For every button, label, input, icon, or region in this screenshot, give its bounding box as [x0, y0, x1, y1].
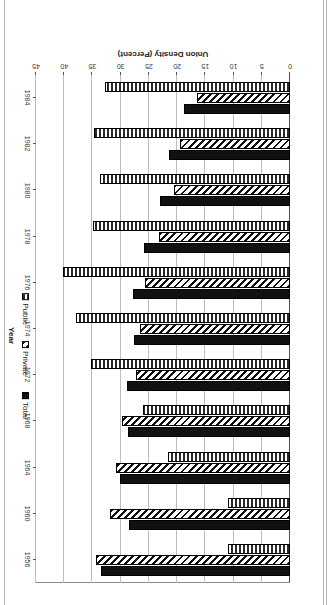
bar-private-1984: [197, 93, 290, 103]
category-axis-tick-mark: [33, 282, 36, 283]
bar-public-1976: [63, 267, 290, 277]
bar-private-1972: [136, 370, 290, 380]
page-edge-line-left-1: [326, 0, 327, 605]
bar-total-1984: [184, 104, 290, 114]
category-axis-label-1956: 1956: [24, 537, 31, 583]
union-density-bar-chart: 051015202530354045Union Density (Percent…: [0, 0, 330, 605]
bar-public-1968: [143, 405, 290, 415]
legend-swatch-public-icon: [22, 293, 29, 300]
bar-total-1964: [120, 474, 290, 484]
bar-group: [36, 167, 290, 213]
bar-group: [36, 121, 290, 167]
value-axis-tick-label: 45: [32, 63, 40, 70]
category-axis-label-1982: 1982: [24, 121, 31, 167]
bar-private-1980: [174, 185, 290, 195]
value-axis-title: Union Density (Percent): [118, 50, 209, 59]
value-axis-tick-label: 30: [117, 63, 125, 70]
value-axis-tick-label: 5: [260, 63, 264, 70]
bar-group: [36, 75, 290, 121]
bar-public-1980: [100, 174, 290, 184]
value-axis-tick-label: 0: [288, 63, 292, 70]
value-axis-tick-label: 15: [201, 63, 209, 70]
value-axis-tick-label: 40: [60, 63, 68, 70]
category-axis: 1956196019641968197219741976197819801982…: [2, 75, 36, 583]
category-axis-tick-mark: [33, 559, 36, 560]
category-axis-tick-mark: [33, 374, 36, 375]
bar-total-1960: [129, 520, 290, 530]
bar-public-1972: [91, 359, 290, 369]
bar-public-1982: [94, 128, 290, 138]
bar-total-1974: [134, 335, 290, 345]
category-axis-tick-mark: [33, 513, 36, 514]
category-axis-title: Year: [7, 327, 16, 344]
bar-public-1984: [105, 82, 290, 92]
bar-group: [36, 537, 290, 583]
category-axis-tick-mark: [33, 467, 36, 468]
bar-private-1982: [181, 139, 291, 149]
legend-label: Private: [21, 351, 30, 376]
bar-private-1978: [159, 232, 290, 242]
category-axis-label-1980: 1980: [24, 167, 31, 213]
bar-total-1976: [133, 289, 290, 299]
bar-private-1976: [145, 278, 290, 288]
page-edge-line-left-2: [323, 0, 324, 605]
bar-total-1968: [128, 427, 290, 437]
bar-group: [36, 260, 290, 306]
bar-public-1978: [93, 221, 290, 231]
bar-public-1960: [228, 498, 290, 508]
bar-private-1960: [110, 509, 290, 519]
category-axis-label-1978: 1978: [24, 214, 31, 260]
category-axis-tick-mark: [33, 189, 36, 190]
value-axis-tick-label: 10: [230, 63, 238, 70]
bar-total-1972: [127, 381, 290, 391]
legend-label: Total: [21, 402, 30, 419]
bar-total-1980: [160, 196, 290, 206]
plot-area: [36, 75, 290, 583]
legend-item-private[interactable]: Private: [21, 341, 30, 376]
bar-private-1968: [122, 416, 290, 426]
chart-legend: TotalPrivatePublic: [21, 277, 30, 419]
legend-label: Public: [21, 303, 30, 325]
bar-group: [36, 214, 290, 260]
category-axis-label-1960: 1960: [24, 491, 31, 537]
value-axis-tick-label: 35: [89, 63, 97, 70]
category-axis-tick-mark: [33, 143, 36, 144]
bar-group: [36, 398, 290, 444]
category-axis-tick-mark: [33, 97, 36, 98]
bar-public-1964: [168, 452, 290, 462]
category-axis-label-1964: 1964: [24, 444, 31, 490]
value-axis: 051015202530354045Union Density (Percent…: [36, 45, 290, 75]
bar-group: [36, 491, 290, 537]
bar-public-1956: [228, 544, 290, 554]
bar-total-1982: [169, 150, 290, 160]
category-axis-tick-mark: [33, 328, 36, 329]
bar-group: [36, 306, 290, 352]
bar-total-1956: [101, 566, 290, 576]
category-axis-tick-mark: [33, 420, 36, 421]
category-axis-tick-mark: [33, 236, 36, 237]
bar-private-1956: [96, 555, 290, 565]
legend-swatch-private-icon: [22, 341, 29, 348]
value-axis-tick-label: 20: [173, 63, 181, 70]
bar-total-1978: [144, 243, 290, 253]
value-axis-tick-label: 25: [145, 63, 153, 70]
bar-private-1974: [140, 324, 290, 334]
legend-item-total[interactable]: Total: [21, 392, 30, 419]
bar-group: [36, 444, 290, 490]
category-axis-label-1984: 1984: [24, 75, 31, 121]
legend-item-public[interactable]: Public: [21, 293, 30, 325]
bar-group: [36, 352, 290, 398]
bar-public-1974: [76, 313, 290, 323]
bar-private-1964: [116, 463, 290, 473]
legend-swatch-total-icon: [22, 392, 29, 399]
